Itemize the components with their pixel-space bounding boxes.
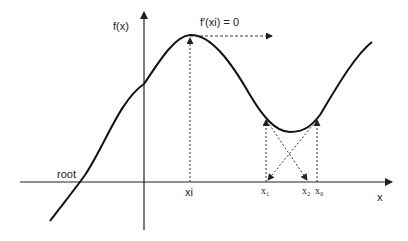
derivative-zero-label: f′(xi) = 0 — [200, 16, 239, 28]
x-axis-label: x — [377, 191, 383, 203]
x1-label: x₁ — [261, 185, 270, 196]
function-curve — [50, 35, 372, 221]
root-label: root — [57, 168, 76, 180]
y-axis-label: f(x) — [113, 20, 129, 32]
xi-label: xi — [185, 186, 193, 198]
x0-label: x₀ — [315, 185, 324, 196]
newton-method-diagram: f(x) f′(xi) = 0 root xi x₁ x₂ x₀ x — [0, 0, 408, 241]
tangent-x0-to-x1 — [268, 121, 316, 180]
x2-label: x₂ — [302, 185, 311, 196]
